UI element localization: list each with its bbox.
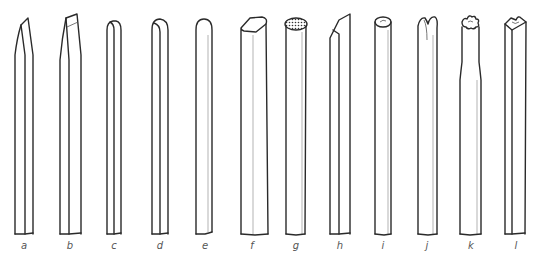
rod-tips-diagram <box>0 0 540 262</box>
label-c: c <box>104 240 124 251</box>
rod-c <box>107 21 121 234</box>
rod-e <box>196 19 212 234</box>
rod-k <box>460 16 481 235</box>
rod-d <box>152 19 168 234</box>
rod-l <box>505 17 526 234</box>
rod-a <box>15 18 33 234</box>
rod-j <box>418 17 437 235</box>
rod-h <box>330 14 350 234</box>
label-a: a <box>14 240 34 251</box>
rod-b <box>60 14 81 234</box>
label-e: e <box>195 240 215 251</box>
label-l: l <box>506 240 526 251</box>
label-i: i <box>373 240 393 251</box>
rod-g <box>285 18 307 235</box>
label-k: k <box>461 240 481 251</box>
label-j: j <box>417 240 437 251</box>
rod-i <box>375 17 391 235</box>
label-g: g <box>286 240 306 251</box>
label-h: h <box>330 240 350 251</box>
rod-f <box>241 17 268 235</box>
label-d: d <box>150 240 170 251</box>
label-b: b <box>60 240 80 251</box>
label-f: f <box>242 240 262 251</box>
